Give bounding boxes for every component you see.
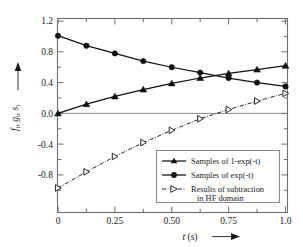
x-tick-label: 0.25	[107, 216, 124, 226]
data-point	[226, 75, 231, 80]
y-tick-labels: 1.2 0.8 0.4 0.0 -0.4 -0.8	[38, 16, 53, 180]
x-tick-labels: 0 0.25 0.50 0.75 1.0	[56, 216, 292, 226]
chart-figure: 0 0.25 0.50 0.75 1.0 1.2 0.8 0.4 0.0 -0.…	[0, 0, 303, 247]
legend-label: Samples of exp(-t)	[191, 171, 254, 180]
legend-label: Results of subtraction	[191, 185, 265, 194]
y-tick-label: 0.0	[41, 109, 53, 119]
y-tick-label: -0.4	[38, 140, 53, 150]
data-point	[254, 98, 260, 105]
series-line-1	[58, 36, 286, 87]
data-point	[169, 65, 174, 70]
y-tick-label: 0.4	[41, 78, 53, 88]
data-point	[55, 33, 60, 38]
x-tick-label: 0.50	[163, 216, 180, 226]
data-point	[198, 115, 204, 122]
x-tick-label: 0.75	[220, 216, 237, 226]
y-axis-arrow-icon	[15, 62, 22, 90]
y-tick-label: 0.8	[41, 47, 53, 57]
series-line-0	[58, 66, 286, 114]
data-point	[141, 58, 146, 63]
data-point	[84, 169, 90, 176]
data-point	[141, 139, 147, 146]
data-point	[197, 70, 202, 75]
svg-text:fi, gi, si: fi, gi, si	[10, 105, 21, 131]
legend[interactable]: Samples of 1-exp(-t) Samples of exp(-t) …	[157, 151, 280, 204]
data-point	[84, 43, 89, 48]
y-axis-title: fi, gi, si	[10, 105, 21, 131]
x-axis-title-unit: (s)	[185, 232, 197, 243]
right-axis-ticks	[282, 21, 288, 190]
series-0	[55, 63, 289, 116]
svg-text:t (s): t (s)	[182, 232, 197, 243]
data-point	[169, 127, 175, 134]
y-tick-label: 1.2	[41, 16, 53, 26]
data-point	[112, 153, 118, 160]
x-tick-label: 0	[56, 216, 61, 226]
y-axis-title-s-sub: i	[14, 105, 21, 107]
data-point	[112, 51, 117, 56]
top-axis-ticks	[58, 19, 286, 25]
data-point	[254, 80, 259, 85]
y-tick-label: -0.8	[38, 170, 53, 180]
x-tick-label: 1.0	[280, 216, 292, 226]
data-point	[226, 106, 232, 113]
circle-filled-icon	[171, 172, 177, 178]
chart-canvas: 0 0.25 0.50 0.75 1.0 1.2 0.8 0.4 0.0 -0.…	[0, 0, 303, 247]
legend-label-line2: in HF domain	[197, 194, 244, 203]
x-axis-major-ticks	[58, 207, 286, 213]
x-axis-title: t (s)	[182, 232, 240, 243]
x-axis-arrow-icon	[212, 233, 240, 240]
data-point	[283, 84, 288, 89]
legend-label: Samples of 1-exp(-t)	[191, 157, 261, 166]
